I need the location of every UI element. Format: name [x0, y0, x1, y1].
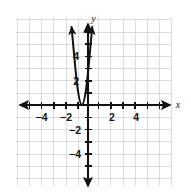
x-tick-label-pos4: 4 — [133, 111, 139, 123]
x-tick-label-neg4: −4 — [36, 111, 48, 123]
plot-background — [0, 0, 191, 194]
y-tick-label-pos4: 4 — [73, 50, 79, 62]
y-tick-label-neg4: −4 — [69, 148, 81, 160]
graph-figure: 1. — [0, 0, 191, 194]
coordinate-plane-plot: y x −4 −2 2 4 4 2 −2 −4 — [0, 0, 191, 194]
y-axis-label: y — [90, 13, 96, 24]
y-tick-label-neg2: −2 — [69, 124, 81, 136]
y-tick-label-pos2: 2 — [73, 75, 79, 87]
x-axis-label: x — [175, 99, 181, 110]
x-tick-label-neg2: −2 — [60, 111, 72, 123]
x-tick-label-pos2: 2 — [109, 111, 115, 123]
